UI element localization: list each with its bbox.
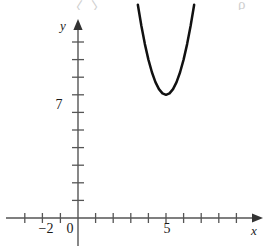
x-tick-label-minus-2: −2 (36, 222, 56, 236)
parabola-curve (138, 5, 194, 95)
y-axis-arrowhead (73, 19, 82, 30)
x-axis-arrowhead (252, 213, 263, 222)
y-tick-label-7: 7 (52, 98, 66, 112)
parabola-figure: 〈 〉, ρ (0, 0, 270, 246)
x-tick-label-5: 5 (160, 222, 174, 236)
origin-tick-label: 0 (63, 222, 77, 236)
y-axis-label: y (60, 19, 66, 32)
x-axis-label: x (251, 224, 257, 237)
plot-canvas (0, 0, 270, 246)
